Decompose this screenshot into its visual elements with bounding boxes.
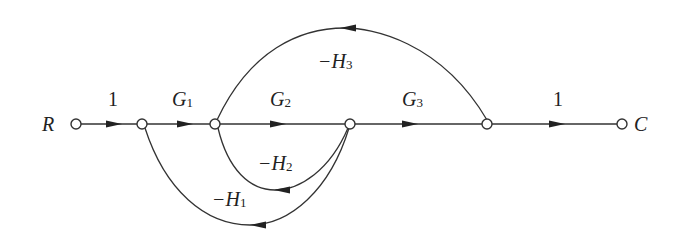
gain-H3: −H3 (318, 50, 352, 72)
arrow-n1-n2 (177, 121, 193, 128)
arrow-n3-n4 (402, 121, 418, 128)
label-C: C (634, 113, 648, 135)
node-1 (137, 119, 147, 129)
arrow-H2 (274, 187, 290, 194)
gain-n4-C: 1 (553, 88, 563, 110)
arrow-n2-n3 (270, 121, 286, 128)
gain-G2: G2 (270, 88, 291, 110)
arrow-H3 (340, 25, 356, 32)
node-C (617, 119, 627, 129)
node-4 (482, 119, 492, 129)
gain-H2: −H2 (258, 152, 292, 174)
gain-G3: G3 (402, 88, 423, 110)
node-2 (210, 119, 220, 129)
arrow-H1 (250, 222, 266, 229)
node-R (71, 119, 81, 129)
edge-n4-n2-H3 (217, 28, 487, 120)
signal-flow-graph: R C 1 1 G1 G2 G3 −H3 −H2 −H1 (0, 0, 693, 236)
gain-H1: −H1 (212, 188, 246, 210)
arrow-R-n1 (106, 121, 122, 128)
node-3 (345, 119, 355, 129)
arrow-n4-C (549, 121, 565, 128)
gain-G1: G1 (172, 88, 193, 110)
edge-n3-n1-H1 (145, 128, 349, 225)
label-R: R (41, 113, 54, 135)
gain-R-n1: 1 (108, 88, 118, 110)
